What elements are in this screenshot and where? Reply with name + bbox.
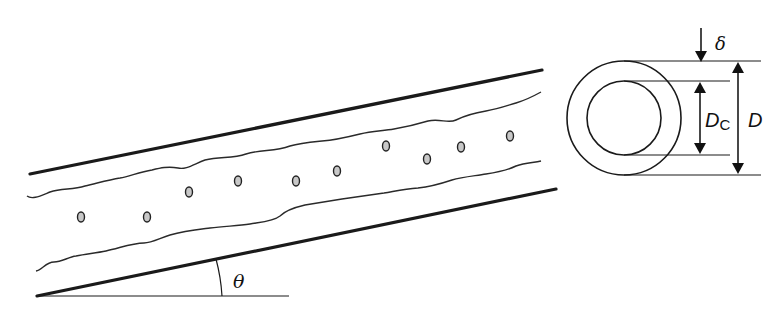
core-dimension-arrow-down	[694, 143, 706, 154]
pipe-dimension-arrow-down	[732, 163, 744, 174]
droplet	[458, 142, 465, 152]
core-dimension-arrow-up	[694, 82, 706, 93]
droplet	[78, 212, 85, 222]
inclined-pipe	[27, 70, 556, 296]
inner-core-ring	[587, 81, 661, 155]
film-thickness-indicator: δ	[695, 28, 726, 62]
outer-pipe-ring	[567, 61, 681, 175]
droplet	[424, 154, 431, 164]
film-thickness-label: δ	[715, 33, 726, 54]
pipe-top-wall	[30, 70, 542, 174]
core-diameter-label: DC	[705, 109, 730, 133]
pipe-diameter-label: D	[748, 109, 762, 131]
angle-label: θ	[233, 270, 245, 292]
droplet	[293, 176, 300, 186]
pipe-dimension-arrow-up	[732, 62, 744, 73]
droplet	[383, 141, 390, 151]
core-diameter-subscript: C	[719, 116, 730, 133]
pipe-cross-section: δ DC D	[567, 28, 762, 175]
droplet	[507, 131, 514, 141]
core-diameter-symbol: D	[705, 109, 719, 131]
annular-flow-diagram: θ δ DC D	[0, 0, 784, 319]
droplet	[334, 166, 341, 176]
lower-film-interface	[36, 161, 541, 271]
pipe-diameter-dimension: D	[732, 62, 762, 174]
droplet	[144, 212, 151, 222]
core-diameter-dimension: DC	[694, 82, 730, 154]
diagram-canvas: θ δ DC D	[0, 0, 784, 319]
delta-arrow-head	[695, 51, 707, 62]
droplet	[235, 176, 242, 186]
pipe-bottom-wall	[37, 189, 556, 296]
inclination-angle: θ	[37, 259, 289, 296]
angle-arc	[216, 259, 222, 296]
droplet	[186, 187, 193, 197]
